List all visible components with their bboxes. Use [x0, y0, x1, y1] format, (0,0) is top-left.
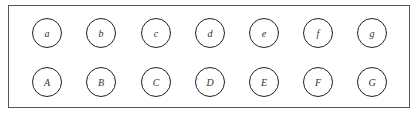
circle-C: C — [141, 67, 171, 97]
circle-d: d — [195, 18, 225, 48]
circle-a: a — [32, 18, 62, 48]
circle-f: f — [303, 18, 333, 48]
circle-E: E — [249, 67, 279, 97]
circle-F: F — [303, 67, 333, 97]
circle-B: B — [86, 67, 116, 97]
circle-G: G — [357, 67, 387, 97]
circle-b: b — [86, 18, 116, 48]
circle-g: g — [357, 18, 387, 48]
circle-c: c — [141, 18, 171, 48]
circle-A: A — [32, 67, 62, 97]
circle-D: D — [195, 67, 225, 97]
circle-e: e — [249, 18, 279, 48]
